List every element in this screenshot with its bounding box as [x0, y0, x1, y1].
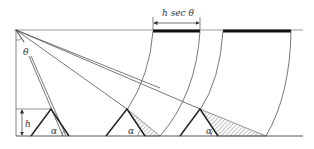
arc-3 [200, 31, 223, 110]
dimension-label: h sec θ [162, 8, 195, 18]
arc-1 [127, 31, 153, 110]
alpha-label-2: α [128, 126, 134, 136]
shadow-geometry-diagram: h sec θ θ h α α α [0, 0, 314, 149]
theta-label: θ [23, 47, 29, 57]
slant-line-a [29, 56, 63, 136]
ray-3 [16, 30, 160, 88]
alpha-label-3: α [206, 126, 212, 136]
arc-4 [266, 31, 291, 136]
height-label: h [25, 119, 31, 129]
ray-2 [16, 30, 200, 109]
arc-2 [160, 31, 200, 136]
triangle-1 [31, 109, 69, 136]
alpha-arc-2 [138, 130, 141, 136]
ray-1 [16, 30, 127, 109]
alpha-label-1: α [51, 126, 57, 136]
